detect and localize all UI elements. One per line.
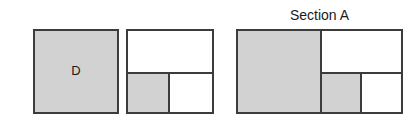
cell-top-right (322, 31, 401, 72)
cell-top-band (128, 31, 212, 72)
divider-vertical-sub (360, 72, 362, 114)
cell-bottom-right (170, 74, 212, 112)
figure-solid-square: D (33, 29, 119, 114)
section-a-caption: Section A (236, 8, 403, 22)
figure-quartered-square (126, 29, 214, 114)
divider-horizontal (128, 72, 212, 74)
diagram-canvas: Section A D (0, 0, 417, 121)
cell-left-column (238, 31, 320, 112)
cell-label-d: D (35, 64, 117, 77)
divider-vertical (168, 72, 170, 114)
cell-bottom-right (362, 74, 401, 112)
cell-bottom-middle (322, 74, 360, 112)
figure-section-a-rectangle (236, 29, 403, 114)
cell-bottom-left (128, 74, 168, 112)
